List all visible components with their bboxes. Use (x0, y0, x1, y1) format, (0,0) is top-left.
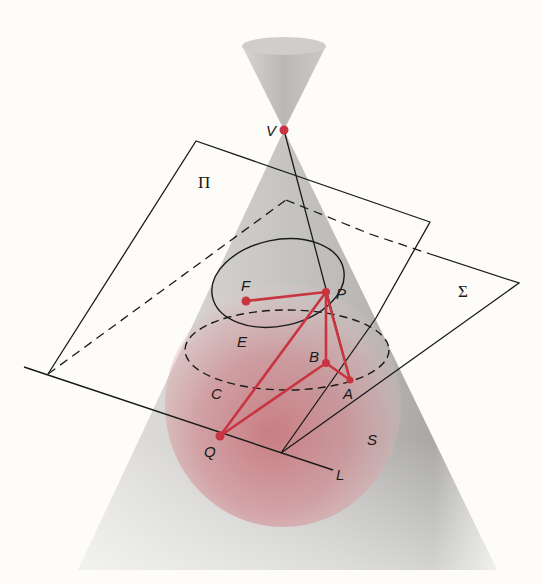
point-f (242, 297, 251, 306)
point-b (322, 359, 330, 367)
label-a: A (342, 385, 353, 402)
label-f: F (241, 277, 251, 294)
label-e: E (237, 333, 248, 350)
diagram-canvas: V Π Σ F P E B A C Q S L (0, 0, 541, 585)
dandelin-sphere-diagram: V Π Σ F P E B A C Q S L (0, 0, 541, 585)
point-v (280, 126, 289, 135)
label-pi: Π (198, 173, 210, 192)
upper-cone-nappe (242, 37, 326, 130)
label-l: L (336, 466, 344, 483)
point-q (216, 432, 225, 441)
label-c: C (211, 385, 222, 402)
label-b: B (309, 348, 319, 365)
label-p: P (336, 285, 346, 302)
label-s: S (367, 431, 377, 448)
point-a (347, 377, 354, 384)
point-p (322, 288, 330, 296)
label-sigma: Σ (458, 282, 468, 301)
sphere-s (165, 283, 401, 527)
label-q: Q (204, 443, 216, 460)
label-v: V (266, 122, 278, 139)
